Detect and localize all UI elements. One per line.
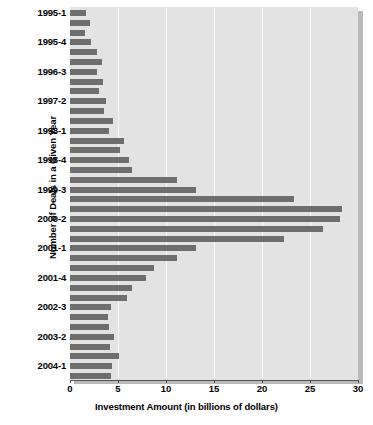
bar-row: [70, 59, 358, 65]
bar: [70, 226, 323, 232]
bar: [70, 39, 91, 45]
x-tick-label: 15: [209, 383, 220, 394]
bar-row: [70, 255, 358, 261]
bar: [70, 20, 90, 26]
bar-row: [70, 344, 358, 350]
y-tick-label: 1997-2: [38, 96, 66, 105]
y-tick-label: 2002-3: [38, 302, 66, 311]
y-axis-tick-labels: 1995-11995-41996-31997-21998-11998-41999…: [18, 8, 66, 379]
bar: [70, 167, 132, 173]
bar-row: [70, 10, 358, 16]
x-tick-label: 5: [115, 383, 120, 394]
bar: [70, 98, 106, 104]
bar: [70, 59, 102, 65]
bar: [70, 304, 111, 310]
bar-row: [70, 39, 358, 45]
bar: [70, 324, 109, 330]
x-tick-label: 0: [67, 383, 72, 394]
bar-row: [70, 196, 358, 202]
y-tick-label: 2003-2: [38, 332, 66, 341]
bar: [70, 363, 112, 369]
bar: [70, 49, 97, 55]
y-tick-label: 2004-1: [38, 361, 66, 370]
bar: [70, 353, 119, 359]
bar: [70, 275, 146, 281]
bar-chart: Number of Deals in a Given Year 1995-119…: [0, 0, 373, 425]
x-tick-label: 25: [305, 383, 316, 394]
bar: [70, 206, 342, 212]
bar-row: [70, 187, 358, 193]
bar: [70, 334, 114, 340]
bar-row: [70, 363, 358, 369]
bar: [70, 245, 196, 251]
bar: [70, 216, 340, 222]
bar: [70, 30, 85, 36]
y-tick-label: 1999-3: [38, 185, 66, 194]
bar-row: [70, 49, 358, 55]
y-tick-label: 2000-2: [38, 214, 66, 223]
bar-row: [70, 167, 358, 173]
bar-row: [70, 206, 358, 212]
bar-row: [70, 324, 358, 330]
bar: [70, 69, 97, 75]
bar: [70, 295, 127, 301]
bar-row: [70, 265, 358, 271]
bar-row: [70, 236, 358, 242]
x-axis-tick-labels: 051015202530: [0, 383, 373, 397]
x-tick-label: 20: [257, 383, 268, 394]
bar: [70, 285, 132, 291]
bar: [70, 118, 113, 124]
bar: [70, 255, 177, 261]
y-tick-label: 2001-4: [38, 273, 66, 282]
bar: [70, 177, 177, 183]
bar: [70, 10, 86, 16]
plot-edge-shadow-right: [358, 11, 363, 384]
bar-row: [70, 108, 358, 114]
bar-row: [70, 295, 358, 301]
bar-row: [70, 20, 358, 26]
bar-row: [70, 128, 358, 134]
bar-row: [70, 334, 358, 340]
bar: [70, 128, 109, 134]
y-tick-label: 2001-1: [38, 243, 66, 252]
bar-row: [70, 353, 358, 359]
bar: [70, 314, 108, 320]
bar-row: [70, 245, 358, 251]
bar-row: [70, 88, 358, 94]
bar: [70, 79, 103, 85]
y-tick-label: 1995-1: [38, 8, 66, 17]
bar-row: [70, 177, 358, 183]
bar: [70, 88, 99, 94]
bar: [70, 265, 154, 271]
y-tick-label: 1996-3: [38, 67, 66, 76]
bar: [70, 157, 129, 163]
bar-row: [70, 304, 358, 310]
y-tick-label: 1998-1: [38, 126, 66, 135]
y-tick-label: 1995-4: [38, 37, 66, 46]
bar-row: [70, 79, 358, 85]
x-tick-label: 10: [161, 383, 172, 394]
bar: [70, 138, 124, 144]
bar-row: [70, 118, 358, 124]
bar: [70, 108, 104, 114]
bar-row: [70, 226, 358, 232]
plot-area: [70, 7, 358, 380]
bar: [70, 344, 110, 350]
bar-row: [70, 285, 358, 291]
bar-row: [70, 98, 358, 104]
bar: [70, 147, 120, 153]
bar-row: [70, 69, 358, 75]
bar-row: [70, 147, 358, 153]
bar-row: [70, 30, 358, 36]
x-tick-label: 30: [353, 383, 364, 394]
bar-row: [70, 216, 358, 222]
bar: [70, 196, 294, 202]
bar: [70, 187, 196, 193]
x-axis-title: Investment Amount (in billions of dollar…: [0, 401, 373, 412]
bar: [70, 236, 284, 242]
bar-row: [70, 373, 358, 379]
bar-row: [70, 157, 358, 163]
bar-row: [70, 275, 358, 281]
bar-row: [70, 314, 358, 320]
bar: [70, 373, 111, 379]
